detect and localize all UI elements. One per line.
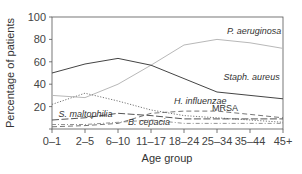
x-tick-label: 2–5 xyxy=(76,135,94,147)
series-annotation: Staph. aureus xyxy=(224,72,281,82)
x-axis-title: Age group xyxy=(142,152,193,164)
y-tick-label: 100 xyxy=(28,11,46,23)
x-tick-label: 6–10 xyxy=(106,135,130,147)
series-labels: P. aeruginosaStaph. aureusH. influenzaeM… xyxy=(59,26,282,127)
series-annotation: MRSA xyxy=(212,103,238,113)
series-line-p-aeruginosa xyxy=(52,39,283,97)
x-tick-label: 45+ xyxy=(274,135,293,147)
series-annotation: B. cepacia xyxy=(128,117,170,127)
x-tick-label: 25–34 xyxy=(202,135,233,147)
y-tick-label: 40 xyxy=(34,78,46,90)
x-tick-label: 0–1 xyxy=(43,135,61,147)
y-axis-title: Percentage of patients xyxy=(4,17,16,128)
x-tick-label: 11–17 xyxy=(136,135,166,147)
line-chart: 20406080100 0–12–56–1011–1718–2425–3435–… xyxy=(0,0,302,174)
x-tick-label: 18–24 xyxy=(169,135,200,147)
series-annotation: P. aeruginosa xyxy=(227,26,281,36)
y-tick-label: 20 xyxy=(34,101,46,113)
x-axis: 0–12–56–1011–1718–2425–3435–4445+ xyxy=(43,129,293,147)
y-axis: 20406080100 xyxy=(28,11,52,129)
y-tick-label: 60 xyxy=(34,56,46,68)
x-tick-label: 35–44 xyxy=(235,135,266,147)
series-annotation: S. maltophilia xyxy=(59,109,113,119)
y-tick-label: 80 xyxy=(34,33,46,45)
